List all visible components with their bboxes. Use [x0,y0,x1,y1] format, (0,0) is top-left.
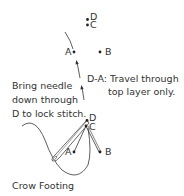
label-top-C: C [90,20,97,30]
label-top-A: A [65,47,72,57]
annotation-lock-line1: Bring needle [12,80,72,91]
arrow-up-icon [76,60,81,78]
dot-top-D [86,18,89,21]
label-bottom-A: A [65,147,72,157]
annotation-lock-line2: down through [12,94,78,105]
annotation-travel-line2: top layer only. [108,86,175,97]
label-bottom-B: B [105,147,112,157]
label-top-B: B [105,47,112,57]
arrow-up-icon [80,85,84,100]
dot-bottom-A [73,151,76,154]
caption: Crow Footing [12,180,74,191]
dot-top-C [86,24,89,27]
dot-top-B [99,51,102,54]
annotation-travel-line1: D-A: Travel through [87,73,179,84]
dot-bottom-B [99,151,102,154]
dot-top-A [73,51,76,54]
label-bottom-C: C [89,122,96,132]
annotation-lock-line3: D to lock stitch. [12,108,86,119]
dot-bottom-C [85,125,88,128]
dot-bottom-D [86,119,89,122]
